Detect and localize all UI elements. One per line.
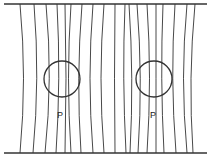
field-lines	[20, 4, 195, 153]
field-diagram	[0, 0, 209, 162]
label-p-right: P	[150, 111, 156, 120]
label-p-left: P	[57, 111, 63, 120]
circle-right	[136, 61, 172, 97]
